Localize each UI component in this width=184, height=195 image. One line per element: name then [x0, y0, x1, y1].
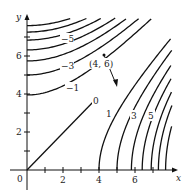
- label-neg3: −3: [61, 61, 75, 71]
- point-marker: [103, 54, 106, 57]
- label-pos1: 1: [106, 109, 112, 119]
- point-label: (4, 6): [89, 59, 113, 69]
- x-tick-4: 4: [96, 175, 102, 185]
- y-tick-6: 6: [16, 51, 22, 61]
- origin-label: 0: [17, 174, 23, 184]
- label-neg1: −1: [66, 83, 79, 93]
- label-pos3: 3: [131, 111, 137, 121]
- y-axis-arrow-icon: [25, 14, 30, 20]
- y-tick-4: 4: [16, 89, 22, 99]
- x-axis-label: x: [176, 173, 181, 183]
- contour-figure: −5 −3 −1 (4, 6) 0 1 3 5 y x 0 2 4 6 2 4 …: [0, 0, 184, 195]
- y-tick-2: 2: [16, 127, 22, 137]
- label-pos5: 5: [148, 111, 154, 121]
- x-tick-2: 2: [60, 175, 66, 185]
- label-zero: 0: [93, 96, 99, 106]
- x-tick-6: 6: [132, 175, 138, 185]
- y-axis-label: y: [15, 12, 22, 22]
- arrowhead-icon: [113, 79, 118, 87]
- contour-plot: −5 −3 −1 (4, 6) 0 1 3 5 y x 0 2 4 6 2 4 …: [0, 0, 184, 195]
- x-axis-arrow-icon: [172, 168, 178, 173]
- label-neg5: −5: [61, 34, 75, 44]
- level-curve-zero: [27, 101, 94, 170]
